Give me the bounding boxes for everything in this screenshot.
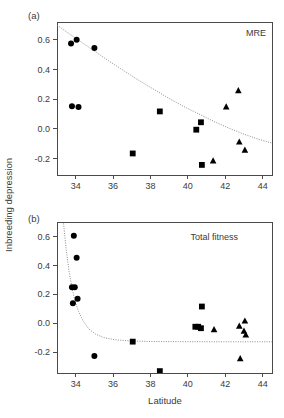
data-point-square xyxy=(130,339,136,345)
data-point-circle xyxy=(72,284,78,290)
data-point-triangle xyxy=(237,355,244,361)
panel-b-plot-area: 343638404244-0.20.00.20.40.6 xyxy=(34,222,272,389)
panel-a-annotation: MRE xyxy=(246,28,266,38)
data-point-triangle xyxy=(223,103,230,109)
data-point-square xyxy=(198,325,204,331)
y-tick-label: 0.2 xyxy=(37,289,50,299)
x-tick-label: 42 xyxy=(220,379,230,389)
x-tick-label: 36 xyxy=(108,379,118,389)
y-tick-label: 0.0 xyxy=(37,318,50,328)
data-point-triangle xyxy=(236,322,243,328)
data-point-triangle xyxy=(242,317,249,323)
data-point-square xyxy=(157,109,163,115)
data-point-triangle xyxy=(242,146,249,152)
x-tick-label: 44 xyxy=(258,181,268,191)
y-tick-label: -0.2 xyxy=(34,154,50,164)
y-tick-label: 0.6 xyxy=(37,232,50,242)
x-tick-label: 34 xyxy=(71,181,81,191)
panel-a-plot-area: 343638404244-0.20.00.20.40.6 xyxy=(34,22,272,191)
x-tick-label: 38 xyxy=(145,379,155,389)
y-tick-label: 0.6 xyxy=(37,35,50,45)
data-point-square xyxy=(199,304,205,310)
fitted-decline-curve xyxy=(64,223,272,341)
y-tick-label: 0.0 xyxy=(37,124,50,134)
scatter-figure: Inbreeding depression (a) MRE 3436384042… xyxy=(0,0,284,418)
x-tick-label: 38 xyxy=(145,181,155,191)
data-point-circle xyxy=(76,104,82,110)
figure-root: Inbreeding depression (a) MRE 3436384042… xyxy=(0,0,284,418)
data-point-triangle xyxy=(235,87,242,93)
panel-b: (b) Total fitness 343638404244-0.20.00.2… xyxy=(28,213,272,389)
data-point-circle xyxy=(70,300,76,306)
x-tick-label: 40 xyxy=(183,181,193,191)
fitted-decline-curve xyxy=(57,25,272,143)
data-point-triangle xyxy=(210,157,217,163)
data-point-circle xyxy=(74,37,80,43)
x-tick-label: 44 xyxy=(258,379,268,389)
data-point-triangle xyxy=(211,326,218,332)
x-tick-label: 36 xyxy=(108,181,118,191)
x-axis-title: Latitude xyxy=(148,395,182,406)
data-point-circle xyxy=(74,255,80,261)
y-tick-label: 0.2 xyxy=(37,94,50,104)
data-point-square xyxy=(130,151,136,157)
plot-frame xyxy=(57,22,272,175)
data-point-circle xyxy=(69,103,75,109)
data-point-circle xyxy=(75,296,81,302)
x-tick-label: 40 xyxy=(183,379,193,389)
y-tick-label: 0.4 xyxy=(37,261,50,271)
x-tick-label: 42 xyxy=(220,181,230,191)
panel-a-label: (a) xyxy=(28,10,40,21)
data-point-circle xyxy=(91,353,97,359)
data-point-square xyxy=(199,162,205,168)
data-point-circle xyxy=(91,45,97,51)
data-point-square xyxy=(198,119,204,125)
plot-frame xyxy=(57,222,272,373)
x-tick-label: 34 xyxy=(71,379,81,389)
panel-a: (a) MRE 343638404244-0.20.00.20.40.6 xyxy=(28,10,272,191)
panel-b-annotation: Total fitness xyxy=(190,232,238,242)
y-tick-label: -0.2 xyxy=(34,347,50,357)
data-point-triangle xyxy=(236,138,243,144)
data-point-circle xyxy=(71,233,77,239)
panel-b-label: (b) xyxy=(28,213,40,224)
y-tick-label: 0.4 xyxy=(37,65,50,75)
data-point-square xyxy=(193,127,199,133)
data-point-circle xyxy=(68,41,74,47)
y-axis-title: Inbreeding depression xyxy=(3,158,14,252)
